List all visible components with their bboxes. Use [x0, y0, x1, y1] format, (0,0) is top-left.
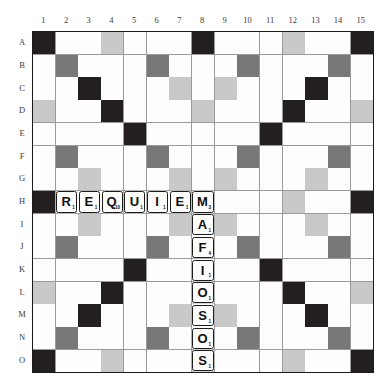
board-cell-K14[interactable] — [328, 259, 350, 281]
board-cell-B11[interactable] — [260, 55, 282, 77]
board-cell-J15[interactable] — [351, 236, 373, 258]
board-cell-M13[interactable] — [305, 304, 327, 326]
board-cell-D8[interactable] — [192, 100, 214, 122]
board-cell-J6[interactable] — [147, 236, 169, 258]
board-cell-N2[interactable] — [56, 327, 78, 349]
board-cell-E10[interactable] — [237, 123, 259, 145]
board-cell-C15[interactable] — [351, 77, 373, 99]
tile-H5[interactable]: U1 — [124, 191, 145, 212]
board-cell-B12[interactable] — [283, 55, 305, 77]
board-cell-J12[interactable] — [283, 236, 305, 258]
board-cell-O6[interactable] — [147, 350, 169, 372]
board-cell-K1[interactable] — [33, 259, 55, 281]
board-cell-G10[interactable] — [237, 168, 259, 190]
board-cell-C13[interactable] — [305, 77, 327, 99]
board-cell-M15[interactable] — [351, 304, 373, 326]
board-cell-L10[interactable] — [237, 282, 259, 304]
board-cell-I14[interactable] — [328, 214, 350, 236]
board-cell-C3[interactable] — [78, 77, 100, 99]
board-cell-G5[interactable] — [124, 168, 146, 190]
board-cell-D14[interactable] — [328, 100, 350, 122]
board-cell-E6[interactable] — [147, 123, 169, 145]
board-cell-G1[interactable] — [33, 168, 55, 190]
board-cell-F15[interactable] — [351, 146, 373, 168]
board-cell-G4[interactable] — [101, 168, 123, 190]
board-cell-I13[interactable] — [305, 214, 327, 236]
board-cell-H1[interactable] — [33, 191, 55, 213]
board-cell-L4[interactable] — [101, 282, 123, 304]
board-cell-C8[interactable] — [192, 77, 214, 99]
board-cell-C14[interactable] — [328, 77, 350, 99]
board-cell-M10[interactable] — [237, 304, 259, 326]
board-cell-C7[interactable] — [169, 77, 191, 99]
board-cell-N8[interactable]: O1 — [192, 327, 214, 349]
tile-H8[interactable]: M3 — [192, 191, 213, 212]
board-cell-L5[interactable] — [124, 282, 146, 304]
board-cell-D13[interactable] — [305, 100, 327, 122]
board-cell-G15[interactable] — [351, 168, 373, 190]
board-cell-I12[interactable] — [283, 214, 305, 236]
board-cell-J3[interactable] — [78, 236, 100, 258]
board-cell-D1[interactable] — [33, 100, 55, 122]
board-cell-J1[interactable] — [33, 236, 55, 258]
board-cell-D3[interactable] — [78, 100, 100, 122]
board-cell-C10[interactable] — [237, 77, 259, 99]
board-cell-D2[interactable] — [56, 100, 78, 122]
board-cell-L14[interactable] — [328, 282, 350, 304]
board-cell-F9[interactable] — [215, 146, 237, 168]
board-cell-O2[interactable] — [56, 350, 78, 372]
board-cell-N15[interactable] — [351, 327, 373, 349]
board-cell-D15[interactable] — [351, 100, 373, 122]
board-cell-B7[interactable] — [169, 55, 191, 77]
board-cell-F14[interactable] — [328, 146, 350, 168]
board-cell-B13[interactable] — [305, 55, 327, 77]
board-cell-L15[interactable] — [351, 282, 373, 304]
tile-H4[interactable]: Q10 — [102, 191, 123, 212]
tile-H7[interactable]: E1 — [170, 191, 191, 212]
board-cell-A12[interactable] — [283, 32, 305, 54]
board-cell-F5[interactable] — [124, 146, 146, 168]
board-cell-C11[interactable] — [260, 77, 282, 99]
board-cell-F3[interactable] — [78, 146, 100, 168]
board-cell-I9[interactable] — [215, 214, 237, 236]
board-cell-N6[interactable] — [147, 327, 169, 349]
board-cell-I6[interactable] — [147, 214, 169, 236]
board-cell-H3[interactable]: E1 — [78, 191, 100, 213]
board-cell-G13[interactable] — [305, 168, 327, 190]
board-cell-O14[interactable] — [328, 350, 350, 372]
board-cell-O5[interactable] — [124, 350, 146, 372]
board-cell-H11[interactable] — [260, 191, 282, 213]
board-cell-E2[interactable] — [56, 123, 78, 145]
board-cell-O4[interactable] — [101, 350, 123, 372]
board-cell-F10[interactable] — [237, 146, 259, 168]
board-cell-I10[interactable] — [237, 214, 259, 236]
board-cell-K11[interactable] — [260, 259, 282, 281]
board-cell-L6[interactable] — [147, 282, 169, 304]
board-cell-K9[interactable] — [215, 259, 237, 281]
tile-N8[interactable]: O1 — [192, 328, 213, 349]
board-cell-F11[interactable] — [260, 146, 282, 168]
board-cell-H5[interactable]: U1 — [124, 191, 146, 213]
board-cell-I11[interactable] — [260, 214, 282, 236]
board-cell-O10[interactable] — [237, 350, 259, 372]
board-cell-G6[interactable] — [147, 168, 169, 190]
board-cell-L12[interactable] — [283, 282, 305, 304]
board-cell-I3[interactable] — [78, 214, 100, 236]
board-cell-H2[interactable]: R1 — [56, 191, 78, 213]
board-cell-I4[interactable] — [101, 214, 123, 236]
board-cell-H9[interactable] — [215, 191, 237, 213]
board-cell-B9[interactable] — [215, 55, 237, 77]
board-cell-A13[interactable] — [305, 32, 327, 54]
board-cell-M8[interactable]: S1 — [192, 304, 214, 326]
board-cell-B14[interactable] — [328, 55, 350, 77]
board-cell-A4[interactable] — [101, 32, 123, 54]
board-cell-E8[interactable] — [192, 123, 214, 145]
board-cell-L7[interactable] — [169, 282, 191, 304]
tile-I8[interactable]: A1 — [192, 214, 213, 235]
board-cell-F2[interactable] — [56, 146, 78, 168]
board-cell-A2[interactable] — [56, 32, 78, 54]
board-cell-K6[interactable] — [147, 259, 169, 281]
board-cell-H13[interactable] — [305, 191, 327, 213]
board-cell-F8[interactable] — [192, 146, 214, 168]
board-cell-F6[interactable] — [147, 146, 169, 168]
